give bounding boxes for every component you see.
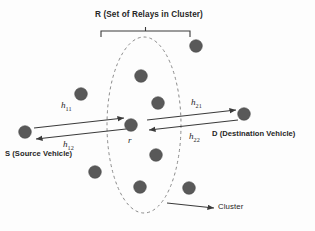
channel-label-h11: h11: [61, 101, 72, 112]
relay-node-upper-right: [152, 97, 165, 110]
arrow-h11-source-to-relay: [34, 118, 124, 128]
cluster-label: Cluster: [218, 203, 243, 211]
outer-vehicle-node-lower-left: [89, 166, 102, 179]
channel-h22-subscript: 22: [194, 136, 200, 143]
outer-vehicle-node-bottom-right: [183, 182, 196, 195]
channel-h11-subscript: 11: [66, 105, 72, 112]
relay-node-top: [135, 70, 148, 83]
relay-set-bracket: [101, 27, 190, 37]
relay-node-bottom: [134, 181, 147, 194]
relay-cluster-diagram: R (Set of Relays in Cluster) h11 h12 h21…: [0, 0, 315, 231]
channel-label-h21: h21: [191, 98, 202, 109]
outer-vehicle-node-top-right: [190, 40, 203, 53]
relay-node-center: [125, 119, 138, 132]
relay-node-label: r: [128, 136, 132, 145]
relay-set-label: R (Set of Relays in Cluster): [95, 11, 203, 19]
arrow-h12-relay-to-source: [36, 129, 126, 139]
channel-h21-subscript: 21: [196, 102, 202, 109]
source-vehicle-node: [19, 126, 32, 139]
destination-vehicle-node: [238, 108, 251, 121]
arrow-cluster-pointer: [167, 203, 214, 208]
source-vehicle-label: S (Source Vehicle): [5, 150, 72, 158]
destination-vehicle-label: D (Destination Vehicle): [212, 130, 295, 138]
outer-vehicle-node-upper-left: [75, 88, 88, 101]
relay-node-lower-right: [150, 149, 163, 162]
arrow-h21-relay-to-destination: [147, 110, 236, 120]
vehicle-nodes: [19, 40, 251, 195]
channel-label-h22: h22: [189, 132, 200, 143]
diagram-canvas: [0, 0, 315, 231]
